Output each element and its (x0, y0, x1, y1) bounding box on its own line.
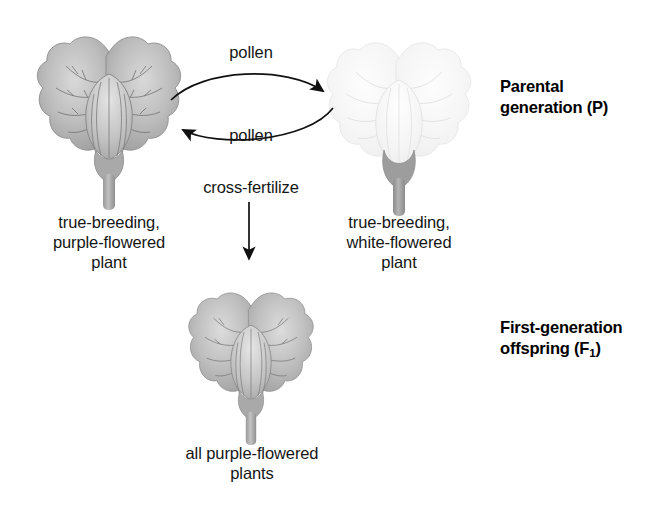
caption-line-2: white-flowered (293, 232, 505, 252)
parental-generation-label-line2: generation (P) (500, 97, 608, 118)
pollen-label-top: pollen (186, 43, 316, 62)
caption-line-2: purple-flowered (0, 232, 218, 252)
flower-stem (393, 178, 405, 216)
parental-generation-label-line1: Parental (500, 76, 608, 97)
caption-line-2: plants (146, 463, 358, 483)
diagram-canvas: true-breeding, purple-flowered plant (0, 0, 672, 523)
purple-flower-illustration (34, 22, 184, 212)
flower-stem (103, 174, 115, 210)
parental-generation-label: Parental generation (P) (500, 76, 608, 118)
f1-generation-label: First-generation offspring (F1) (500, 317, 622, 361)
white-parent-caption: true-breeding, white-flowered plant (293, 212, 505, 272)
f1-generation-label-line2: offspring (F1) (500, 338, 622, 361)
caption-line-3: plant (0, 252, 218, 272)
curved-arrow-right-icon (171, 74, 323, 100)
caption-line-1: true-breeding, (0, 212, 218, 232)
caption-line-1: true-breeding, (293, 212, 505, 232)
purple-parent-flower (34, 22, 184, 212)
pollen-label-bottom: pollen (186, 126, 316, 145)
f1-offspring-flower (176, 280, 326, 445)
caption-line-3: plant (293, 252, 505, 272)
white-flower-illustration (324, 28, 474, 218)
caption-line-1: all purple-flowered (146, 443, 358, 463)
purple-parent-caption: true-breeding, purple-flowered plant (0, 212, 218, 272)
cross-fertilize-label: cross-fertilize (176, 178, 326, 197)
f1-label-text-pre: offspring (F (500, 339, 589, 357)
f1-label-text-post: ) (595, 339, 600, 357)
flower-stem (246, 412, 256, 445)
f1-label-subscript: 1 (589, 347, 595, 359)
white-parent-flower (324, 28, 474, 218)
f1-offspring-caption: all purple-flowered plants (146, 443, 358, 483)
f1-purple-flower-illustration (176, 280, 326, 445)
f1-generation-label-line1: First-generation (500, 317, 622, 338)
cross-fertilize-arrow (235, 200, 265, 272)
arrow-down-svg (235, 200, 265, 272)
